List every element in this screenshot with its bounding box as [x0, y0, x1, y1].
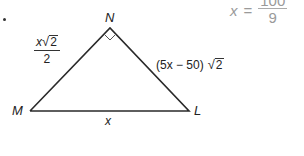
side-nl-radicand: 2	[215, 58, 224, 71]
answer-fraction: 100 9	[258, 0, 287, 26]
answer-numerator: 100	[258, 0, 287, 9]
side-nl-label: (5x − 50) √2	[156, 58, 224, 72]
vertex-label-m: M	[12, 103, 23, 118]
right-angle-marker	[104, 34, 116, 40]
side-mn-denominator: 2	[44, 51, 51, 66]
answer-equals-sign: =	[244, 2, 253, 19]
answer-denominator: 9	[269, 9, 277, 26]
side-nl-expression: (5x − 50)	[156, 58, 204, 72]
side-mn-numerator: x√2	[34, 35, 60, 51]
side-ml-label: x	[105, 114, 111, 128]
sqrt-symbol: √2	[208, 58, 224, 71]
answer-variable: x	[230, 2, 238, 19]
side-mn-radicand: 2	[49, 35, 58, 48]
sqrt-symbol: √2	[42, 35, 58, 48]
side-mn-fraction: x√2 2	[34, 35, 60, 66]
vertex-label-n: N	[105, 10, 114, 25]
answer-expression: x = 100 9	[230, 0, 287, 26]
side-mn-label: x√2 2	[34, 35, 60, 66]
vertex-label-l: L	[194, 103, 201, 118]
